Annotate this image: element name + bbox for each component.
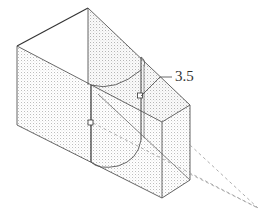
marker-square-left — [88, 120, 93, 125]
isometric-drawing — [0, 0, 267, 218]
drawing-canvas: 3.5 — [0, 0, 267, 218]
dimension-label: 3.5 — [175, 68, 194, 85]
